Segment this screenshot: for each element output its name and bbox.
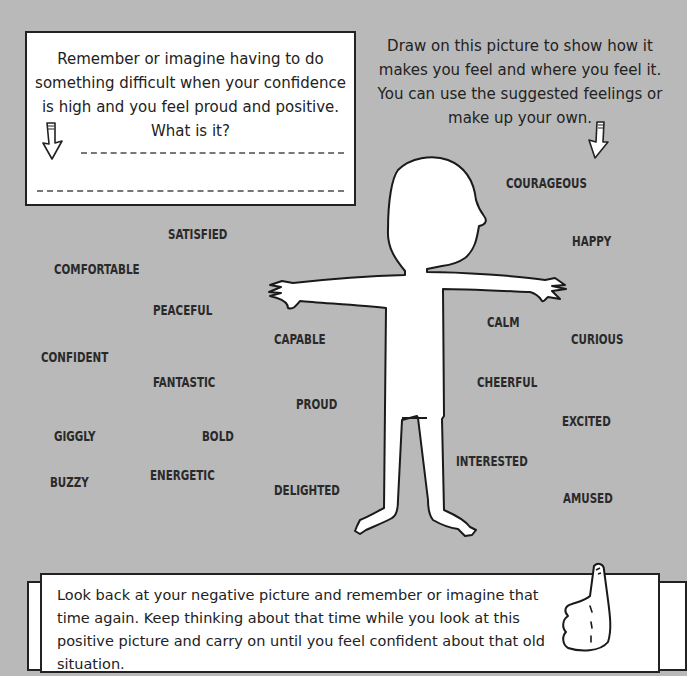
thumbs-up-icon xyxy=(560,560,620,653)
feeling-word-confident: CONFIDENT xyxy=(41,349,108,365)
feeling-word-giggly: GIGGLY xyxy=(54,428,96,444)
feeling-word-fantastic: FANTASTIC xyxy=(153,374,215,390)
feeling-word-proud: PROUD xyxy=(296,396,337,412)
feeling-word-peaceful: PEACEFUL xyxy=(153,302,212,318)
feeling-word-happy: HAPPY xyxy=(572,233,611,249)
feeling-word-interested: INTERESTED xyxy=(456,453,528,469)
person-outline-figure[interactable] xyxy=(0,0,670,560)
feeling-word-cheerful: CHEERFUL xyxy=(477,374,537,390)
feeling-word-comfortable: COMFORTABLE xyxy=(54,261,140,277)
feeling-word-energetic: ENERGETIC xyxy=(150,467,215,483)
feeling-word-curious: CURIOUS xyxy=(571,331,623,347)
feeling-word-calm: CALM xyxy=(487,314,519,330)
reflection-text: Look back at your negative picture and r… xyxy=(57,584,557,676)
feeling-word-capable: CAPABLE xyxy=(274,331,326,347)
feeling-word-excited: EXCITED xyxy=(562,413,611,429)
feeling-word-delighted: DELIGHTED xyxy=(274,482,340,498)
feeling-word-amused: AMUSED xyxy=(563,490,613,506)
feeling-word-satisfied: SATISFIED xyxy=(168,226,227,242)
feeling-word-bold: BOLD xyxy=(202,428,234,444)
feeling-word-buzzy: BUZZY xyxy=(50,474,89,490)
feeling-word-courageous: COURAGEOUS xyxy=(506,175,587,191)
